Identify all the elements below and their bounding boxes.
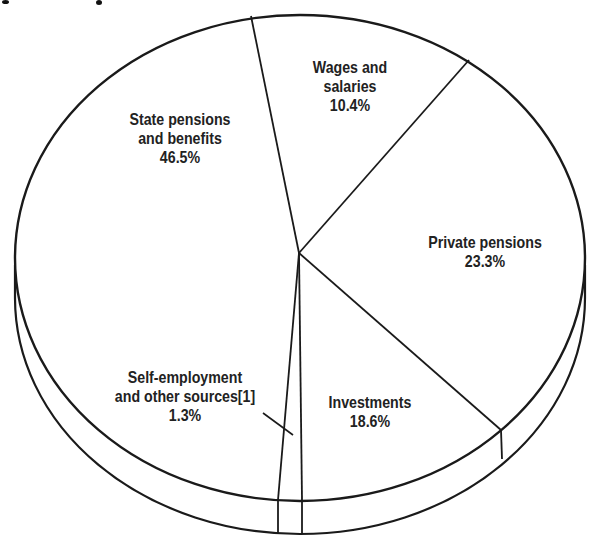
label-private-pct: 23.3% [408, 252, 563, 271]
rim-edge-private-investments [501, 430, 502, 459]
label-selfemp-line1: Self-employment [95, 368, 276, 387]
cropped-title-fragment [2, 0, 9, 4]
label-selfemp-line2: and other sources[1] [95, 387, 276, 406]
label-investments: Investments 18.6% [314, 393, 426, 431]
cropped-title-fragment [96, 0, 102, 5]
label-private-line1: Private pensions [408, 233, 563, 252]
label-state-line2: and benefits [90, 129, 271, 148]
label-investments-line1: Investments [314, 393, 426, 412]
label-private-pensions: Private pensions 23.3% [408, 233, 563, 271]
label-investments-pct: 18.6% [314, 412, 426, 431]
label-wages-pct: 10.4% [294, 96, 406, 115]
label-selfemp-pct: 1.3% [95, 406, 276, 425]
label-self-employment: Self-employment and other sources[1] 1.3… [95, 368, 276, 425]
label-wages: Wages and salaries 10.4% [294, 58, 406, 115]
label-state-pensions: State pensions and benefits 46.5% [90, 110, 271, 167]
label-state-line1: State pensions [90, 110, 271, 129]
label-wages-line1: Wages and [294, 58, 406, 77]
label-wages-line2: salaries [294, 77, 406, 96]
label-state-pct: 46.5% [90, 148, 271, 167]
